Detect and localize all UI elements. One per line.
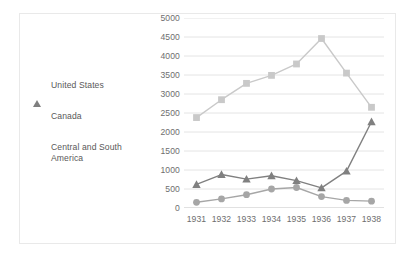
y-axis-tick-4000: 4000 bbox=[150, 51, 180, 61]
x-axis-tick-1934: 1934 bbox=[262, 214, 282, 224]
data-point bbox=[243, 80, 250, 87]
y-axis-tick-0: 0 bbox=[150, 203, 180, 213]
data-point bbox=[193, 199, 200, 206]
y-axis-tick-2500: 2500 bbox=[150, 108, 180, 118]
x-axis-tick-1936: 1936 bbox=[312, 214, 332, 224]
legend-item-central-and-south-america[interactable]: Central and South America bbox=[26, 142, 144, 156]
data-point bbox=[192, 180, 200, 188]
plot-area bbox=[184, 18, 384, 208]
y-axis-tick-500: 500 bbox=[150, 184, 180, 194]
legend-line-swatch bbox=[26, 117, 48, 118]
chart-legend: United States Canada Central and South A… bbox=[26, 80, 144, 173]
data-point bbox=[218, 195, 225, 202]
x-axis-tick-1932: 1932 bbox=[212, 214, 232, 224]
data-point bbox=[342, 167, 350, 175]
data-point bbox=[293, 184, 300, 191]
legend-item-canada[interactable]: Canada bbox=[26, 111, 144, 125]
data-point bbox=[243, 191, 250, 198]
data-point bbox=[343, 197, 350, 204]
data-point bbox=[318, 35, 325, 42]
central-south-america-legend-key bbox=[26, 143, 48, 154]
united-states-legend-key bbox=[26, 81, 48, 92]
data-point bbox=[193, 114, 200, 121]
legend-label-united-states: United States bbox=[51, 80, 104, 91]
plot-area-wrapper: 0500100015002000250030003500400045005000… bbox=[150, 18, 388, 240]
x-axis-tick-1937: 1937 bbox=[337, 214, 357, 224]
y-axis-tick-1000: 1000 bbox=[150, 165, 180, 175]
data-point bbox=[217, 170, 225, 178]
legend-item-united-states[interactable]: United States bbox=[26, 80, 144, 94]
legend-label-central-and-south-america: Central and South America bbox=[51, 142, 122, 163]
data-point bbox=[218, 96, 225, 103]
legend-label-canada: Canada bbox=[51, 111, 82, 122]
data-point bbox=[318, 193, 325, 200]
x-axis-tick-1933: 1933 bbox=[237, 214, 257, 224]
x-axis-tick-1935: 1935 bbox=[287, 214, 307, 224]
data-point bbox=[268, 186, 275, 193]
data-point bbox=[368, 104, 375, 111]
x-axis-tick-labels: 19311932193319341935193619371938 bbox=[184, 214, 384, 230]
data-point bbox=[293, 61, 300, 68]
chart-figure: United States Canada Central and South A… bbox=[0, 0, 414, 265]
x-axis-tick-1938: 1938 bbox=[362, 214, 382, 224]
line-chart-svg bbox=[184, 18, 384, 208]
y-axis-tick-1500: 1500 bbox=[150, 146, 180, 156]
data-point bbox=[368, 198, 375, 205]
y-axis-tick-2000: 2000 bbox=[150, 127, 180, 137]
x-axis-tick-1931: 1931 bbox=[187, 214, 207, 224]
data-point bbox=[367, 118, 375, 126]
y-axis-tick-4500: 4500 bbox=[150, 32, 180, 42]
y-axis-tick-labels: 0500100015002000250030003500400045005000 bbox=[150, 18, 180, 208]
y-axis-tick-3500: 3500 bbox=[150, 70, 180, 80]
legend-line-swatch bbox=[26, 148, 48, 149]
canada-legend-key bbox=[26, 112, 48, 123]
data-point bbox=[267, 172, 275, 180]
y-axis-tick-3000: 3000 bbox=[150, 89, 180, 99]
triangle-marker-icon bbox=[33, 83, 41, 101]
y-axis-tick-5000: 5000 bbox=[150, 13, 180, 23]
data-point bbox=[268, 72, 275, 79]
data-point bbox=[343, 70, 350, 77]
